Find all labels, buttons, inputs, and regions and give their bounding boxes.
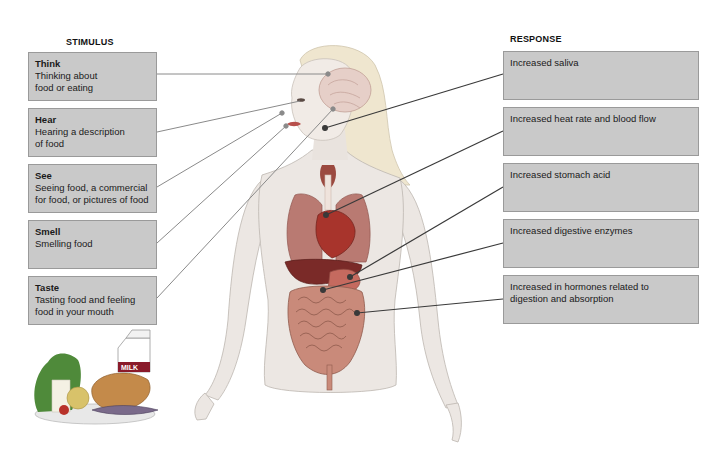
- stimulus-text: Smelling food: [35, 238, 150, 250]
- stimulus-box-hear: Hear Hearing a description of food: [28, 108, 157, 157]
- food-plate-illustration: [34, 330, 158, 424]
- stimulus-box-taste: Taste Tasting food and feeling food in y…: [28, 276, 157, 325]
- response-box-digestive-enzymes: Increased digestive enzymes: [503, 219, 699, 268]
- stimulus-title: Taste: [35, 282, 150, 294]
- stimulus-text: Hearing a description of food: [35, 126, 150, 150]
- response-text: Increased in hormones related to digesti…: [510, 281, 692, 305]
- stimulus-box-think: Think Thinking about food or eating: [28, 52, 157, 101]
- response-text: Increased stomach acid: [510, 169, 692, 181]
- response-text: Increased digestive enzymes: [510, 225, 692, 237]
- milk-label: MILK: [121, 364, 138, 371]
- stimulus-box-see: See Seeing food, a commercial for food, …: [28, 164, 157, 213]
- stimulus-title: Think: [35, 58, 150, 70]
- stimulus-title: See: [35, 170, 150, 182]
- stimulus-text: Thinking about food or eating: [35, 70, 150, 94]
- response-box-stomach-acid: Increased stomach acid: [503, 163, 699, 212]
- stimulus-title: Hear: [35, 114, 150, 126]
- response-text: Increased heat rate and blood flow: [510, 113, 692, 125]
- stimulus-text: Tasting food and feeling food in your mo…: [35, 294, 150, 318]
- response-box-saliva: Increased saliva: [503, 51, 699, 100]
- stimulus-text: Seeing food, a commercial for food, or p…: [35, 182, 150, 206]
- stimulus-box-smell: Smell Smelling food: [28, 220, 157, 269]
- response-text: Increased saliva: [510, 57, 692, 69]
- stimulus-title: Smell: [35, 226, 150, 238]
- response-box-heart-rate: Increased heat rate and blood flow: [503, 107, 699, 156]
- response-box-hormones: Increased in hormones related to digesti…: [503, 275, 699, 324]
- human-body-figure: [195, 46, 462, 442]
